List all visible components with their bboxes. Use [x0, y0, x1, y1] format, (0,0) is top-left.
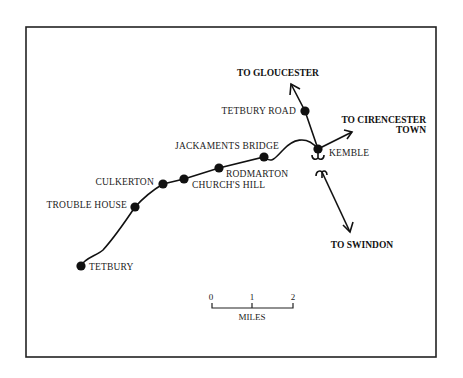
scale-unit-label: MILES [239, 312, 266, 322]
station-label: RODMARTON [226, 169, 288, 179]
station-culkerton: CULKERTON [95, 177, 167, 189]
station-dot [259, 152, 268, 161]
station-dot [130, 202, 139, 211]
railway-line-cirencester [318, 132, 352, 149]
station-label: KEMBLE [329, 148, 369, 158]
station-dot [158, 179, 167, 188]
railway-line-gloucester [291, 84, 318, 149]
station-dot [76, 261, 85, 270]
destination-to-cirencester-town: TO CIRENCESTERTOWN [341, 115, 426, 135]
destination-line: TO SWINDON [331, 240, 394, 250]
scale-bar-line [212, 303, 293, 308]
station-label: CULKERTON [95, 177, 154, 187]
railway-line-swindon [322, 172, 350, 232]
destination-to-gloucester: TO GLOUCESTER [237, 68, 319, 78]
station-label: JACKAMENTS BRIDGE [175, 141, 279, 151]
station-tetbury-road: TETBURY ROAD [221, 106, 309, 116]
station-label: TETBURY ROAD [221, 106, 296, 116]
station-label: TROUBLE HOUSE [47, 200, 127, 210]
scale-tick-1: 1 [250, 292, 255, 302]
destination-line: TO GLOUCESTER [237, 68, 319, 78]
destination-line: TOWN [396, 125, 426, 135]
scale-tick-0: 0 [209, 292, 214, 302]
station-dot [214, 163, 223, 172]
destination-line: TO CIRENCESTER [341, 115, 426, 125]
station-dot [313, 144, 322, 153]
station-tetbury: TETBURY [76, 261, 133, 272]
scale-tick-2: 2 [291, 292, 296, 302]
station-label: CHURCH'S HILL [192, 180, 265, 190]
station-label: TETBURY [89, 262, 134, 272]
station-dot [179, 174, 188, 183]
tunnel-portal-south [316, 171, 327, 178]
station-kemble: KEMBLE [313, 144, 369, 158]
station-dot [300, 106, 309, 115]
station-trouble-house: TROUBLE HOUSE [47, 200, 140, 212]
scale-bar: 0 1 2 MILES [209, 292, 296, 322]
destination-to-swindon: TO SWINDON [331, 240, 394, 250]
station-jackaments-bridge: JACKAMENTS BRIDGE [175, 141, 279, 162]
railway-map: TETBURYTROUBLE HOUSECULKERTONCHURCH'S HI… [0, 0, 463, 378]
